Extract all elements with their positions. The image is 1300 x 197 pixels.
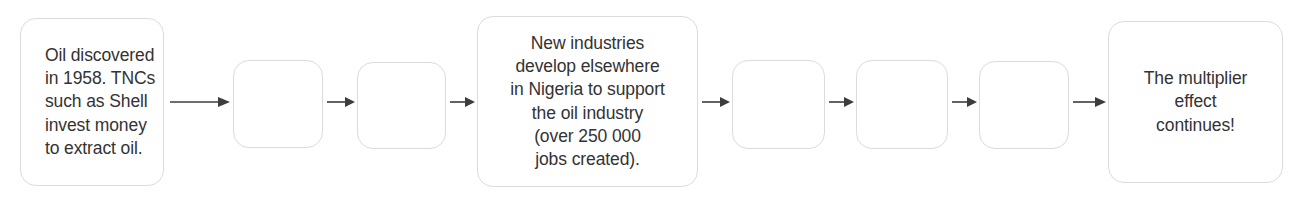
flow-node-multiplier-effect[interactable]: The multiplier effect continues! xyxy=(1108,21,1283,183)
arrow-right-icon xyxy=(829,95,854,109)
flow-node-blank-2[interactable] xyxy=(357,62,446,149)
flow-node-blank-1[interactable] xyxy=(233,60,323,148)
arrow-right-icon xyxy=(702,95,730,109)
flowchart-canvas: Oil discovered in 1958. TNCs such as She… xyxy=(0,0,1300,197)
flow-node-label: New industries develop elsewhere in Nige… xyxy=(502,32,673,172)
flow-node-blank-4[interactable] xyxy=(856,60,948,149)
arrow-right-icon xyxy=(450,95,475,109)
arrow-right-icon xyxy=(170,95,230,109)
flow-node-new-industries[interactable]: New industries develop elsewhere in Nige… xyxy=(477,16,698,187)
arrow-right-icon xyxy=(327,95,355,109)
flow-node-label: The multiplier effect continues! xyxy=(1136,67,1256,137)
arrow-right-icon xyxy=(1073,95,1106,109)
flow-node-blank-5[interactable] xyxy=(979,61,1069,149)
arrow-right-icon xyxy=(952,95,977,109)
flow-node-oil-discovered[interactable]: Oil discovered in 1958. TNCs such as She… xyxy=(20,18,164,186)
flow-node-blank-3[interactable] xyxy=(732,60,825,149)
flow-node-label: Oil discovered in 1958. TNCs such as She… xyxy=(23,44,161,160)
